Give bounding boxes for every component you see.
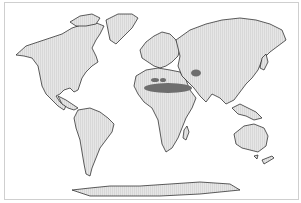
continent-australia: [234, 124, 268, 152]
continent-arctic-islands: [70, 14, 100, 26]
continent-south-america: [74, 108, 114, 176]
continent-europe: [140, 32, 180, 68]
highlight-sahara: [144, 83, 192, 93]
continent-antarctica: [72, 182, 240, 196]
highlight-central-asia: [191, 70, 201, 77]
island-tasmania: [254, 155, 258, 159]
highlight-nw-africa: [151, 78, 159, 82]
islands-southeast-asia: [232, 104, 262, 120]
island-madagascar: [183, 126, 189, 140]
world-map: [0, 0, 301, 203]
continent-asia: [176, 18, 286, 104]
continent-greenland: [106, 14, 138, 44]
island-new-zealand: [262, 156, 274, 164]
highlight-nw-africa-2: [160, 78, 166, 82]
